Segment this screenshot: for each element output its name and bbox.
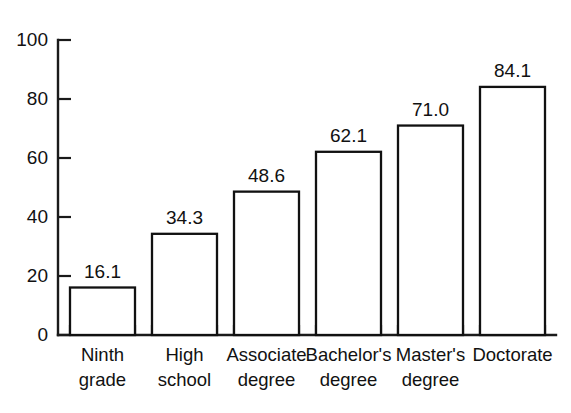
x-axis-ticks [70,325,545,335]
bar-chart-figure: 020406080100 16.134.348.662.171.084.1 Ni… [0,0,571,413]
category-label: grade [79,369,126,390]
y-tick-label: 0 [37,324,48,345]
bar [480,87,545,335]
bar [316,152,381,335]
category-label: Associate [226,344,306,365]
bar [152,234,217,335]
bar [234,192,299,335]
bar-value-label: 48.6 [248,165,285,186]
category-label: degree [238,369,296,390]
category-label: Doctorate [472,344,552,365]
category-label: degree [402,369,460,390]
bar [70,288,135,335]
y-tick-label: 20 [27,265,48,286]
bar-value-label: 71.0 [412,99,449,120]
y-tick-label: 40 [27,206,48,227]
category-label: Bachelor's [306,344,392,365]
bars-group [70,87,545,335]
category-label: Master's [396,344,465,365]
category-label: school [158,369,211,390]
y-tick-label: 100 [16,29,48,50]
y-tick-label: 80 [27,88,48,109]
category-labels-group: NinthgradeHighschoolAssociatedegreeBache… [79,344,553,390]
bar-value-label: 16.1 [84,261,121,282]
category-label: High [165,344,203,365]
y-tick-label: 60 [27,147,48,168]
bar-value-label: 84.1 [494,60,531,81]
category-label: Ninth [81,344,124,365]
y-axis-ticks: 020406080100 [16,29,71,345]
bar-value-label: 62.1 [330,125,367,146]
category-label: degree [320,369,378,390]
chart-canvas: 020406080100 16.134.348.662.171.084.1 Ni… [0,0,571,413]
bar-value-label: 34.3 [166,207,203,228]
bar [398,126,463,335]
